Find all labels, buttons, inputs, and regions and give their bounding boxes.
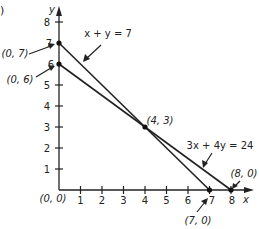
svg-text:8: 8 — [229, 195, 235, 206]
svg-text:6: 6 — [185, 195, 191, 206]
svg-text:3: 3 — [44, 122, 50, 133]
arrow-eq1-icon — [86, 45, 101, 59]
svg-text:8: 8 — [44, 17, 50, 28]
point-0-7 — [56, 40, 61, 45]
svg-text:7: 7 — [209, 195, 215, 206]
point-7-0 — [207, 187, 212, 192]
svg-text:1: 1 — [44, 164, 50, 175]
label-point-8-0: (8, 0) — [231, 168, 258, 179]
label-point-7-0: (7, 0) — [185, 215, 212, 226]
svg-text:4: 4 — [44, 101, 50, 112]
x-axis-arrow-icon — [244, 187, 254, 193]
label-point-0-7: (0, 7) — [2, 48, 29, 59]
arrow-point-7-0-icon — [197, 202, 205, 212]
label-point-4-3: (4, 3) — [147, 115, 174, 126]
point-0-6 — [56, 61, 61, 66]
svg-text:2: 2 — [44, 143, 50, 154]
label-eq-x-plus-y: x + y = 7 — [84, 28, 132, 39]
points — [56, 40, 233, 192]
svg-text:5: 5 — [44, 80, 50, 91]
origin-label: (0, 0) — [40, 193, 67, 204]
linear-equations-graph: ) y x 1 2 3 4 5 6 7 8 — [0, 0, 259, 229]
corner-mark: ) — [0, 4, 4, 17]
svg-text:5: 5 — [163, 195, 169, 206]
y-tick-labels: 1 2 3 4 5 6 7 8 — [44, 17, 54, 175]
arrow-point-0-6-icon — [36, 68, 51, 77]
arrow-point-0-7-icon — [29, 46, 51, 54]
svg-text:1: 1 — [77, 195, 83, 206]
line-x-plus-y-eq-7 — [59, 43, 210, 190]
label-eq-3x-plus-4y: 3x + 4y = 24 — [187, 140, 254, 151]
svg-text:4: 4 — [142, 195, 148, 206]
x-axis-label: x — [242, 194, 249, 205]
y-axis-label: y — [48, 4, 56, 15]
label-point-0-6: (0, 6) — [7, 74, 34, 85]
y-axis-arrow-icon — [56, 6, 62, 16]
svg-text:2: 2 — [99, 195, 105, 206]
svg-text:3: 3 — [120, 195, 126, 206]
x-tick-labels: 1 2 3 4 5 6 7 8 — [77, 195, 235, 206]
